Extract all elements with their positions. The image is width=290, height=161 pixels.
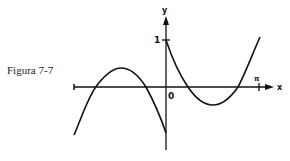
curve-left-branch [74, 68, 166, 135]
pi-label: π [254, 75, 260, 83]
y-tick-label: 1 [154, 35, 160, 45]
x-axis-label: x [277, 83, 283, 92]
origin-label: 0 [168, 91, 174, 101]
curve-right-branch [166, 37, 260, 105]
y-axis [162, 16, 170, 150]
x-axis [74, 83, 274, 91]
function-graph: y 1 0 π x [0, 0, 290, 161]
y-axis-label: y [162, 6, 168, 15]
x-axis-arrow-icon [265, 84, 274, 90]
y-axis-arrow-icon [163, 16, 169, 25]
